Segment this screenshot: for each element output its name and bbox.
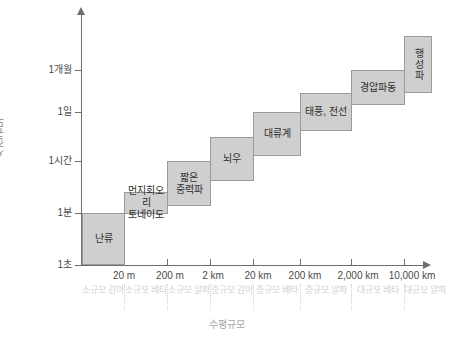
y-tick-label-1s: 1초: [57, 260, 72, 270]
y-tick-mark-3: [75, 112, 82, 113]
x-tick-mark-2: [210, 259, 211, 266]
x-tick-mark-4: [300, 259, 301, 266]
x-tick-label-2000km: 2,000 km: [337, 270, 378, 281]
x-tick-label-20m: 20 m: [113, 270, 135, 281]
x-tick-label-2km: 2 km: [202, 270, 224, 281]
y-tick-label-1min: 1분: [57, 208, 72, 218]
y-tick-label-1day: 1일: [57, 107, 72, 117]
y-tick-mark-4: [75, 70, 82, 71]
y-tick-label-1hour: 1시간: [48, 156, 72, 166]
step-box-planetary-wave: 행성파: [404, 36, 432, 93]
category-label-meso-beta: 중규모 베타: [256, 284, 299, 296]
scale-diagram: 시간규모 1초 1분 1시간 1일 1개월 20 m 200 m 2 km 20…: [0, 0, 453, 342]
category-label-meso-alpha: 중규모 알파: [305, 284, 348, 296]
x-tick-label-200km: 200 km: [289, 270, 322, 281]
y-tick-label-1month: 1개월: [48, 65, 72, 75]
category-separator-4: [300, 284, 301, 310]
y-axis-title-text: 시간규모: [0, 118, 7, 158]
category-label-micro-gamma: 소규모 감마: [82, 284, 125, 296]
category-label-meso-gamma: 중규모 감마: [211, 284, 254, 296]
category-label-micro-beta: 소규모 베타: [125, 284, 168, 296]
step-box-turbulence: 난류: [82, 213, 125, 265]
step-box-dust-devil-tornado: 먼지회오리 토네이도: [124, 192, 168, 214]
x-tick-label-200m: 200 m: [156, 270, 184, 281]
x-axis-arrow-icon: [423, 261, 431, 269]
category-label-macro-beta: 대규모 베타: [357, 284, 400, 296]
x-tick-mark-1: [167, 259, 168, 266]
x-tick-mark-6: [404, 259, 405, 266]
y-axis-arrow-icon: [77, 7, 85, 15]
step-box-convective-system: 대류계: [253, 112, 301, 156]
y-axis-title: 시간규모: [0, 118, 52, 158]
step-box-short-gravity-wave: 짧은 중력파: [167, 161, 211, 206]
step-box-thunderstorm: 뇌우: [210, 137, 254, 181]
x-tick-label-20km: 20 km: [244, 270, 271, 281]
step-box-typhoon-front: 태풍, 전선: [300, 93, 352, 131]
x-tick-mark-5: [351, 259, 352, 266]
step-box-baroclinic-wave: 경압파동: [351, 70, 405, 105]
y-tick-mark-2: [75, 161, 82, 162]
category-label-macro-alpha: 대규모 알파: [404, 284, 447, 296]
x-axis-title: 수평규모: [0, 316, 453, 331]
category-label-micro-alpha: 소규모 알파: [168, 284, 211, 296]
category-separator-5: [351, 284, 352, 310]
x-tick-mark-3: [253, 259, 254, 266]
y-tick-mark-0: [75, 265, 82, 266]
y-tick-mark-1: [75, 213, 82, 214]
x-tick-label-10000km: 10,000 km: [389, 270, 436, 281]
